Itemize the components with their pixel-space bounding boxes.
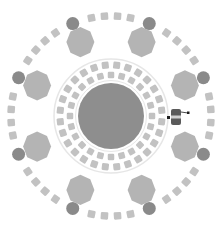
inner-seat-ring-1-seat[interactable] (149, 113, 156, 120)
octagon-table[interactable] (23, 70, 51, 100)
inner-seat-ring-2-seat[interactable] (58, 128, 67, 137)
inner-seat-ring-1-seat[interactable] (67, 123, 75, 131)
inner-seat-ring-2-seat[interactable] (56, 106, 64, 114)
inner-seat-ring-1-seat[interactable] (86, 147, 95, 156)
seating-layout-canvas (0, 0, 223, 231)
octagon-table[interactable] (128, 175, 156, 205)
outer-seat[interactable] (100, 12, 108, 20)
outer-seat[interactable] (114, 12, 122, 20)
inner-seat-ring-2-seat[interactable] (70, 75, 80, 85)
agent-pointer-tip (187, 112, 190, 115)
outer-seat[interactable] (161, 28, 171, 38)
outer-seat[interactable] (9, 131, 18, 140)
outer-seat[interactable] (50, 194, 60, 204)
inner-seat-ring-1-seat[interactable] (147, 123, 155, 131)
outer-seat[interactable] (207, 105, 215, 113)
inner-seat-ring-2-seat[interactable] (158, 118, 166, 126)
inner-seat-ring-2-seat[interactable] (101, 163, 109, 171)
pillar-circle (66, 17, 79, 30)
agent-band (171, 116, 181, 119)
outer-seat[interactable] (9, 92, 18, 101)
outer-seat[interactable] (23, 166, 33, 176)
inner-seat-ring-2-seat[interactable] (123, 160, 132, 169)
outer-seat[interactable] (87, 210, 96, 219)
inner-seat-ring-2-seat[interactable] (133, 68, 143, 78)
inner-seat-ring-1-seat[interactable] (77, 82, 86, 91)
inner-seat-ring-2-seat[interactable] (149, 138, 159, 148)
inner-seat-ring-1-seat[interactable] (135, 140, 144, 149)
inner-seat-ring-1-seat[interactable] (127, 76, 136, 85)
inner-seat-ring-1-seat[interactable] (77, 140, 86, 149)
octagon-table[interactable] (171, 131, 199, 161)
outer-seat[interactable] (181, 45, 192, 56)
octagon-table[interactable] (128, 27, 156, 57)
outer-seat[interactable] (87, 14, 96, 23)
inner-seat-ring-2-seat[interactable] (133, 154, 143, 164)
inner-seat-ring-2-seat[interactable] (79, 68, 89, 78)
inner-seat-ring-1-seat[interactable] (108, 72, 115, 79)
inner-seat-ring-1-seat[interactable] (86, 76, 95, 85)
octagon-table[interactable] (171, 70, 199, 100)
outer-seat[interactable] (40, 36, 51, 47)
outer-seat[interactable] (189, 166, 199, 176)
outer-seat[interactable] (31, 177, 42, 188)
outer-seat[interactable] (207, 119, 215, 127)
pillar-circle (197, 148, 210, 161)
inner-seat-ring-1-seat[interactable] (142, 91, 151, 100)
outer-seat[interactable] (40, 186, 51, 197)
inner-seat-ring-1-seat[interactable] (71, 91, 80, 100)
outer-seat[interactable] (7, 119, 15, 127)
inner-seat-ring-2-seat[interactable] (158, 106, 166, 114)
inner-seat-ring-2-seat[interactable] (155, 95, 164, 104)
inner-seat-ring-1-seat[interactable] (142, 132, 151, 141)
inner-seat-ring-1-seat[interactable] (147, 101, 155, 109)
inner-seat-ring-1-seat[interactable] (96, 152, 104, 160)
inner-seat-ring-1-seat[interactable] (118, 152, 126, 160)
inner-seat-ring-2-seat[interactable] (113, 61, 121, 69)
inner-seat-ring-1-seat[interactable] (96, 72, 104, 80)
outer-seat[interactable] (205, 131, 214, 140)
inner-seat-ring-2-seat[interactable] (101, 61, 109, 69)
octagon-table[interactable] (66, 27, 94, 57)
outer-seat[interactable] (172, 186, 183, 197)
inner-seat-ring-2-seat[interactable] (90, 160, 99, 169)
inner-seat-ring-2-seat[interactable] (63, 138, 73, 148)
inner-seat-ring-1-seat[interactable] (71, 132, 80, 141)
inner-seat-ring-1-seat[interactable] (135, 82, 144, 91)
inner-seat-ring-2-seat[interactable] (149, 84, 159, 94)
outer-seat[interactable] (31, 45, 42, 56)
pillar-circle (197, 71, 210, 84)
center-table-circle[interactable] (78, 83, 144, 149)
outer-seat[interactable] (181, 177, 192, 188)
inner-seat-ring-1-seat[interactable] (67, 101, 75, 109)
inner-seat-ring-1-seat[interactable] (118, 72, 126, 80)
outer-seat[interactable] (100, 212, 108, 220)
outer-seat[interactable] (172, 36, 183, 47)
outer-seat[interactable] (205, 92, 214, 101)
outer-seat[interactable] (126, 210, 135, 219)
inner-seat-ring-2-seat[interactable] (142, 75, 152, 85)
octagon-table[interactable] (66, 175, 94, 205)
outer-seat[interactable] (50, 28, 60, 38)
outer-seat[interactable] (161, 194, 171, 204)
inner-seat-ring-2-seat[interactable] (70, 147, 80, 157)
outer-seat[interactable] (23, 55, 33, 65)
outer-seat[interactable] (189, 55, 199, 65)
inner-seat-ring-2-seat[interactable] (58, 95, 67, 104)
inner-seat-ring-2-seat[interactable] (56, 118, 64, 126)
inner-seat-ring-2-seat[interactable] (123, 63, 132, 72)
outer-seat[interactable] (126, 14, 135, 23)
inner-seat-ring-2-seat[interactable] (155, 128, 164, 137)
inner-seat-ring-1-seat[interactable] (127, 147, 136, 156)
inner-seat-ring-2-seat[interactable] (113, 163, 121, 171)
inner-seat-ring-2-seat[interactable] (142, 147, 152, 157)
inner-seat-ring-1-seat[interactable] (108, 154, 115, 161)
octagon-table[interactable] (23, 131, 51, 161)
outer-seat[interactable] (114, 212, 122, 220)
seating-diagram (0, 0, 223, 231)
inner-seat-ring-1-seat[interactable] (67, 113, 74, 120)
outer-seat[interactable] (7, 105, 15, 113)
inner-seat-ring-2-seat[interactable] (79, 154, 89, 164)
inner-seat-ring-2-seat[interactable] (90, 63, 99, 72)
inner-seat-ring-2-seat[interactable] (63, 84, 73, 94)
